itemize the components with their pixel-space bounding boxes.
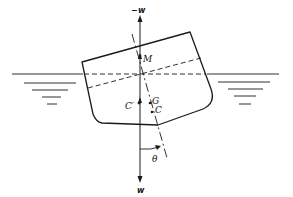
arrow-up-icon bbox=[138, 15, 143, 22]
ship-hull bbox=[82, 32, 212, 125]
top-force-sign: − bbox=[131, 6, 138, 15]
metacenter-label: M bbox=[142, 54, 153, 64]
bottom-force-label: w bbox=[137, 186, 145, 195]
buoyancy-center-label: C bbox=[155, 105, 162, 115]
water-surface-right bbox=[207, 74, 279, 104]
arrow-down-icon bbox=[138, 176, 143, 183]
c-prime-label: C′ bbox=[125, 101, 134, 111]
ship-stability-diagram: − w M C′ G C θ w bbox=[0, 0, 293, 197]
angle-arrow-icon bbox=[155, 145, 161, 150]
buoyancy-center-point bbox=[151, 111, 154, 114]
gravity-center-point bbox=[149, 102, 152, 105]
heel-angle-label: θ bbox=[152, 154, 158, 164]
water-surface-left bbox=[12, 74, 83, 104]
hull-centerline bbox=[132, 34, 167, 158]
metacenter-point bbox=[139, 55, 142, 58]
c-prime-point bbox=[138, 102, 141, 105]
top-force-label: w bbox=[138, 6, 146, 15]
